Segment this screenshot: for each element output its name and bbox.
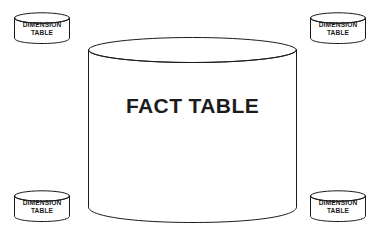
dim-bl-label-line1: DIMENSION xyxy=(14,199,70,207)
dim-tl-label-line1: DIMENSION xyxy=(14,21,70,29)
dimension-table-label-bottom-left: DIMENSION TABLE xyxy=(14,199,70,216)
diagram-canvas: FACT TABLE DIMENSION TABLE DIMENSION TAB… xyxy=(0,0,382,232)
dim-tl-label-line2: TABLE xyxy=(14,29,70,37)
dim-br-label-line1: DIMENSION xyxy=(310,199,366,207)
dim-bl-label-line2: TABLE xyxy=(14,207,70,215)
fact-table-cylinder[interactable] xyxy=(89,38,297,223)
fact-cylinder-body xyxy=(89,50,297,223)
dimension-table-label-bottom-right: DIMENSION TABLE xyxy=(310,199,366,216)
fact-table-label: FACT TABLE xyxy=(88,94,297,118)
dim-tr-label-line1: DIMENSION xyxy=(310,21,366,29)
dim-tr-label-line2: TABLE xyxy=(310,29,366,37)
dimension-table-label-top-left: DIMENSION TABLE xyxy=(14,21,70,38)
dimension-table-label-top-right: DIMENSION TABLE xyxy=(310,21,366,38)
dim-br-label-line2: TABLE xyxy=(310,207,366,215)
